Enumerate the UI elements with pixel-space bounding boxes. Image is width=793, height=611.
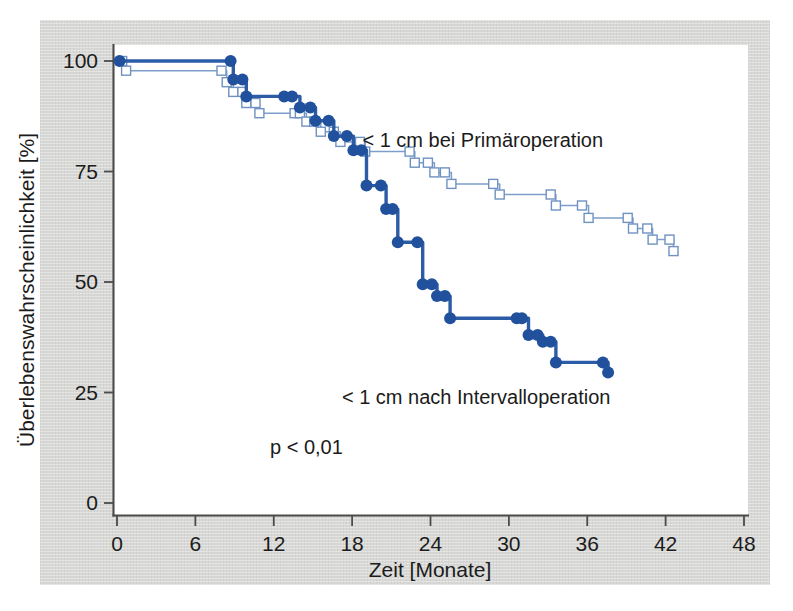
filled-circle-marker (310, 115, 322, 127)
open-square-marker (423, 158, 432, 167)
open-square-marker (495, 190, 504, 199)
y-tick-label: 50 (75, 270, 98, 293)
filled-circle-marker (375, 180, 387, 192)
chart-page: 0255075100 0612182430364248 p < 0,01< 1 … (0, 0, 793, 611)
y-axis: 0255075100 (63, 49, 113, 514)
open-square-marker (251, 99, 260, 108)
p-value-annotation: p < 0,01 (270, 436, 343, 458)
open-square-marker (229, 87, 238, 96)
open-square-marker (410, 158, 419, 167)
y-tick-label: 75 (75, 160, 98, 183)
series-intervalloperation (114, 55, 614, 379)
open-square-marker (551, 201, 560, 210)
filled-circle-marker (602, 367, 614, 379)
filled-circle-marker (411, 236, 423, 248)
x-tick-label: 24 (419, 532, 443, 555)
open-square-marker (430, 168, 439, 177)
filled-circle-marker (341, 130, 353, 142)
open-square-marker (440, 168, 449, 177)
filled-circle-marker (597, 356, 609, 368)
filled-circle-marker (225, 55, 237, 67)
filled-circle-marker (328, 130, 340, 142)
y-axis-title: Überlebenswahrscheinlichkeit [%] (15, 133, 38, 447)
kaplan-meier-chart: 0255075100 0612182430364248 p < 0,01< 1 … (0, 0, 793, 611)
filled-circle-marker (516, 312, 528, 324)
filled-circle-marker (304, 101, 316, 113)
x-tick-label: 12 (262, 532, 285, 555)
open-square-marker (122, 66, 131, 75)
filled-circle-marker (387, 203, 399, 215)
filled-circle-marker (361, 180, 373, 192)
filled-circle-marker (114, 55, 126, 67)
x-axis: 0612182430364248 (111, 515, 756, 555)
filled-circle-marker (240, 90, 252, 102)
filled-circle-marker (444, 312, 456, 324)
x-tick-label: 6 (190, 532, 202, 555)
y-tick-label: 0 (86, 491, 98, 514)
filled-circle-marker (426, 278, 438, 290)
x-tick-label: 0 (111, 532, 123, 555)
series-label-annotation: < 1 cm nach Intervalloperation (342, 386, 611, 408)
filled-circle-marker (545, 336, 557, 348)
x-tick-label: 18 (340, 532, 363, 555)
x-tick-label: 48 (732, 532, 755, 555)
open-square-marker (217, 66, 226, 75)
open-square-marker (489, 179, 498, 188)
y-tick-label: 100 (63, 49, 98, 72)
filled-circle-marker (294, 101, 306, 113)
open-square-marker (648, 235, 657, 244)
open-square-marker (665, 235, 674, 244)
open-square-marker (643, 224, 652, 233)
filled-circle-marker (392, 236, 404, 248)
open-square-marker (629, 224, 638, 233)
open-square-marker (669, 247, 678, 256)
x-tick-label: 42 (654, 532, 677, 555)
filled-circle-marker (550, 356, 562, 368)
filled-circle-marker (286, 90, 298, 102)
filled-circle-marker (323, 115, 335, 127)
filled-circle-marker (439, 290, 451, 302)
open-square-marker (316, 127, 325, 136)
filled-circle-marker (236, 74, 248, 86)
open-square-marker (584, 213, 593, 222)
solid-series-line (120, 61, 608, 373)
x-axis-title: Zeit [Monate] (369, 558, 492, 581)
open-square-marker (546, 190, 555, 199)
open-square-marker (623, 213, 632, 222)
x-tick-label: 30 (497, 532, 520, 555)
open-square-marker (255, 109, 264, 118)
series-label-annotation: < 1 cm bei Primäroperation (362, 129, 603, 151)
x-tick-label: 36 (576, 532, 599, 555)
open-square-marker (578, 201, 587, 210)
y-tick-label: 25 (75, 381, 98, 404)
open-square-marker (447, 179, 456, 188)
